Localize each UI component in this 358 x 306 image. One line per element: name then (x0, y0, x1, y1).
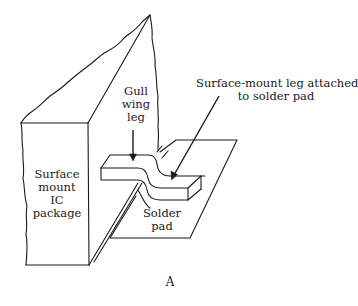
smleg-arrow-shaft (174, 96, 219, 175)
package-side-bottom-edge (89, 183, 138, 265)
label-line: leg (116, 111, 156, 124)
gull-wing-arrow-head (130, 154, 137, 161)
gull-wing-leg-label: Gull wing leg (116, 85, 156, 124)
package-right-torn-edge (150, 15, 158, 150)
label-line: to solder pad (196, 90, 356, 103)
label-line: pad (137, 220, 187, 233)
solder-pad-label: Solder pad (137, 207, 187, 233)
gull-wing-leg-end-bottom (188, 189, 201, 200)
gull-wing-leg-top (101, 155, 205, 176)
gull-wing-leg-front-top-edge (101, 168, 188, 188)
figure-caption: A (160, 276, 180, 289)
package-front-right-edge (88, 123, 89, 265)
package-side-bottom-edge-2 (94, 183, 142, 262)
smleg-arrow-head (171, 171, 178, 180)
label-line: package (26, 207, 88, 220)
surface-mount-leg-label: Surface-mount leg attached to solder pad (196, 77, 356, 103)
gull-wing-leg-riser-2 (162, 151, 168, 158)
ic-package-label: Surface mount IC package (26, 168, 88, 220)
